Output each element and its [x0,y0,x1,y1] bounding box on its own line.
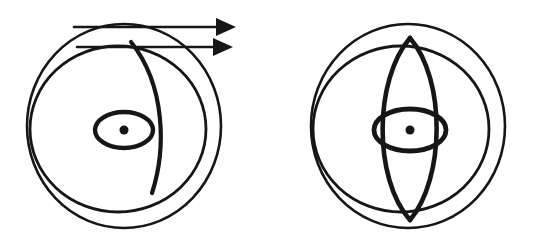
left-sphere-diagram [27,18,236,228]
right-center-dot [406,126,415,135]
left-center-dot [120,126,129,135]
left-upper-arrow-head [216,18,236,36]
left-inner-circle [30,46,206,212]
line-drawing-svg [0,0,535,250]
left-upper-arrow [74,18,236,36]
right-inner-circle [313,46,489,212]
left-lower-arrow-head [213,38,233,56]
figure-canvas [0,0,535,250]
right-sphere-diagram [311,24,505,228]
